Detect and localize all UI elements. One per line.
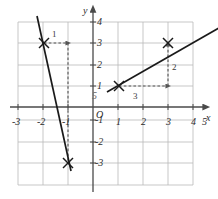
x-tick-label-3: 3 bbox=[166, 117, 171, 127]
y-tick-label-4: 4 bbox=[97, 17, 102, 27]
point-markers bbox=[39, 38, 173, 168]
y-tick-label-2: 2 bbox=[97, 60, 102, 70]
x-tick-label-neg2: -2 bbox=[37, 117, 45, 127]
x-tick-label-2: 2 bbox=[141, 117, 146, 127]
x-tick-label-neg3: -3 bbox=[12, 117, 20, 127]
coordinate-plane-figure: -3 -2 -1 1 2 3 4 5 4 3 2 1 -1 -2 -3 5 O … bbox=[0, 0, 218, 199]
stray-scan-mark: 5 bbox=[92, 91, 97, 101]
right-run-label: 3 bbox=[133, 92, 138, 101]
x-tick-label-1: 1 bbox=[116, 117, 121, 127]
y-tick-label-1: 1 bbox=[97, 81, 102, 91]
y-axis-name-label: y bbox=[83, 6, 87, 16]
plot-canvas bbox=[0, 0, 218, 199]
right-rise-label: 2 bbox=[172, 63, 177, 72]
y-tick-label-3: 3 bbox=[97, 38, 102, 48]
origin-label: O bbox=[96, 110, 103, 120]
x-tick-label-neg1: -1 bbox=[62, 117, 70, 127]
steep-descending-line bbox=[37, 16, 71, 171]
x-axis-name-label: x bbox=[206, 113, 210, 123]
left-run-label: 1 bbox=[52, 30, 57, 39]
y-tick-label-neg3: -3 bbox=[95, 158, 103, 168]
x-tick-label-4: 4 bbox=[191, 117, 196, 127]
y-tick-label-neg2: -2 bbox=[95, 137, 103, 147]
